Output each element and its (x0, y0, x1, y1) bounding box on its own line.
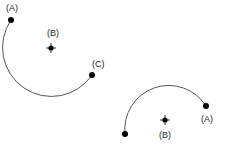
center-b-marker (46, 43, 56, 53)
diagram-canvas: (A) (B) (C) (A) (B) (0, 0, 225, 151)
label-b: (B) (159, 130, 171, 140)
label-c: (C) (92, 59, 105, 69)
endpoint-a-dot (203, 103, 209, 109)
endpoint-dot (122, 131, 128, 137)
arc-path (125, 85, 206, 134)
label-b: (B) (47, 28, 59, 38)
endpoint-a-dot (8, 17, 14, 23)
endpoint-c-dot (89, 72, 95, 78)
arc-figure-1: (A) (B) (C) (3, 3, 105, 96)
arc-figure-2: (A) (B) (122, 85, 213, 140)
label-a: (A) (6, 3, 18, 13)
label-a: (A) (201, 114, 213, 124)
center-b-marker (160, 115, 170, 125)
